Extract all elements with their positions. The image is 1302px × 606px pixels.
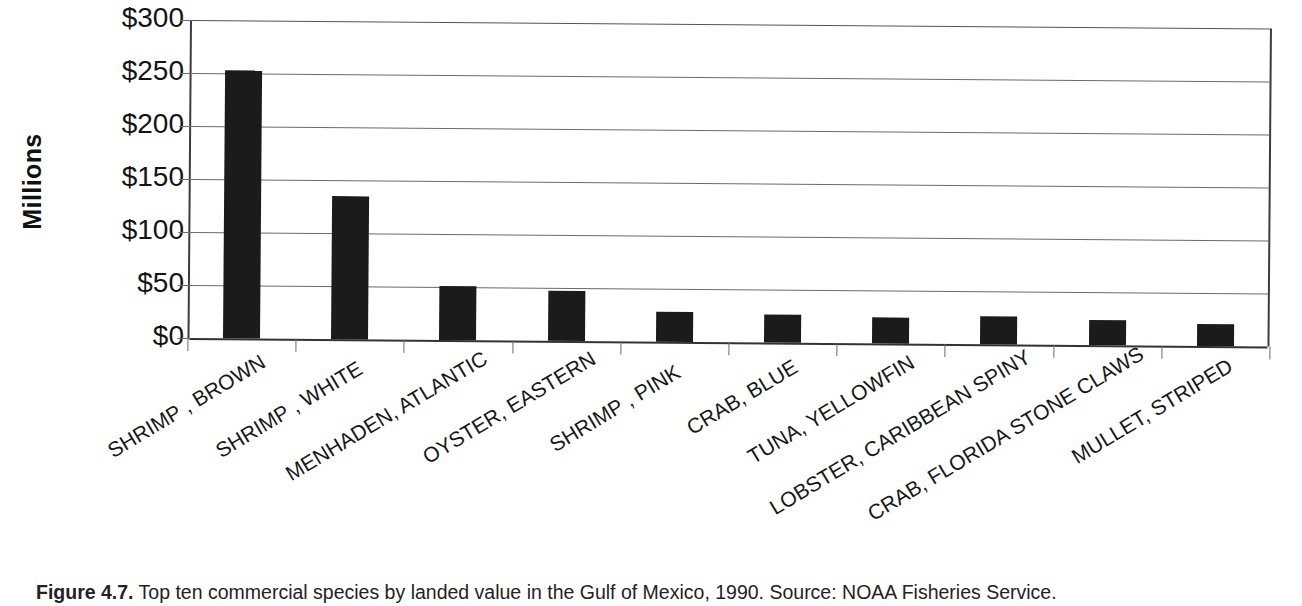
x-tick-mark bbox=[187, 338, 188, 351]
y-tick-label: $200 bbox=[62, 110, 184, 138]
bar-slot bbox=[296, 21, 407, 340]
x-tick-label: MENHADEN, ATLANTIC bbox=[282, 347, 491, 484]
y-axis-title: Millions bbox=[2, 96, 62, 266]
bar bbox=[656, 312, 693, 342]
y-tick-label: $300 bbox=[62, 4, 184, 32]
bar-slot bbox=[728, 24, 839, 343]
bar-slot bbox=[404, 22, 515, 341]
figure-container: Millions $0$50$100$150$200$250$300 SHRIM… bbox=[0, 0, 1302, 606]
bar bbox=[872, 317, 909, 344]
y-axis-title-text: Millions bbox=[18, 133, 47, 229]
bar-slot bbox=[188, 20, 299, 339]
bar-series bbox=[188, 20, 1272, 346]
plot-area-wrapper bbox=[187, 20, 1276, 359]
figure-caption-text: Top ten commercial species by landed val… bbox=[134, 581, 1057, 603]
bar-slot bbox=[837, 25, 948, 344]
bar-slot bbox=[620, 23, 731, 342]
bar-slot bbox=[1053, 27, 1164, 346]
bar bbox=[439, 286, 476, 340]
y-tick-label: $150 bbox=[62, 163, 184, 191]
bar-slot bbox=[945, 26, 1056, 345]
x-tick-mark bbox=[296, 339, 297, 352]
bar bbox=[1197, 324, 1234, 347]
bar bbox=[1089, 320, 1126, 346]
y-tick-label: $250 bbox=[62, 57, 184, 85]
bar bbox=[548, 291, 585, 341]
x-axis-tick-labels: SHRIMP , BROWNSHRIMP , WHITEMENHADEN, AT… bbox=[0, 352, 1302, 552]
figure-caption-label: Figure 4.7. bbox=[36, 581, 134, 603]
bar bbox=[764, 315, 801, 343]
x-tick-mark bbox=[404, 340, 405, 353]
bar-chart: Millions $0$50$100$150$200$250$300 SHRIM… bbox=[0, 0, 1302, 560]
bar bbox=[980, 317, 1017, 345]
y-tick-label: $0 bbox=[62, 322, 184, 350]
bar bbox=[223, 70, 262, 338]
y-tick-label: $100 bbox=[62, 216, 184, 244]
figure-caption: Figure 4.7. Top ten commercial species b… bbox=[36, 580, 1286, 604]
bar-slot bbox=[512, 23, 623, 342]
y-tick-label: $50 bbox=[62, 269, 184, 297]
bar bbox=[331, 196, 369, 339]
bar-slot bbox=[1161, 28, 1272, 347]
y-axis-tick-labels: $0$50$100$150$200$250$300 bbox=[62, 18, 184, 348]
